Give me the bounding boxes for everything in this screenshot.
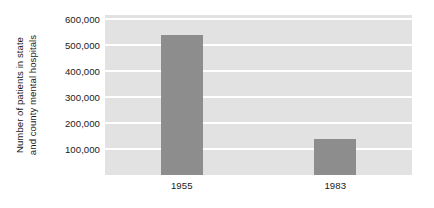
y-axis-tick-label: 400,000 xyxy=(65,65,100,76)
y-axis-tick-label: 500,000 xyxy=(65,39,100,50)
y-axis-tick-label: 200,000 xyxy=(65,117,100,128)
y-axis-title-text: Number of patients in state and county m… xyxy=(14,35,39,155)
y-axis-title-line-2: and county mental hospitals xyxy=(26,35,39,155)
x-axis-tick-label: 1955 xyxy=(171,180,193,191)
y-axis-tick-label: 100,000 xyxy=(65,143,100,154)
bar-1983 xyxy=(314,139,356,175)
gridline xyxy=(105,148,412,150)
gridline xyxy=(105,70,412,72)
bar-chart-figure: Number of patients in state and county m… xyxy=(0,0,434,208)
gridline xyxy=(105,18,412,20)
x-axis-tick-label: 1983 xyxy=(324,180,346,191)
plot-area xyxy=(105,15,412,175)
gridline xyxy=(105,96,412,98)
y-axis-tick-label: 300,000 xyxy=(65,91,100,102)
y-axis-tick-label: 600,000 xyxy=(65,13,100,24)
gridline xyxy=(105,44,412,46)
y-axis-title-line-1: Number of patients in state xyxy=(14,35,27,155)
y-axis-tick-labels: 600,000500,000400,000300,000200,000100,0… xyxy=(52,0,103,208)
y-axis-title: Number of patients in state and county m… xyxy=(0,0,52,190)
gridline xyxy=(105,122,412,124)
bar-1955 xyxy=(161,35,203,175)
